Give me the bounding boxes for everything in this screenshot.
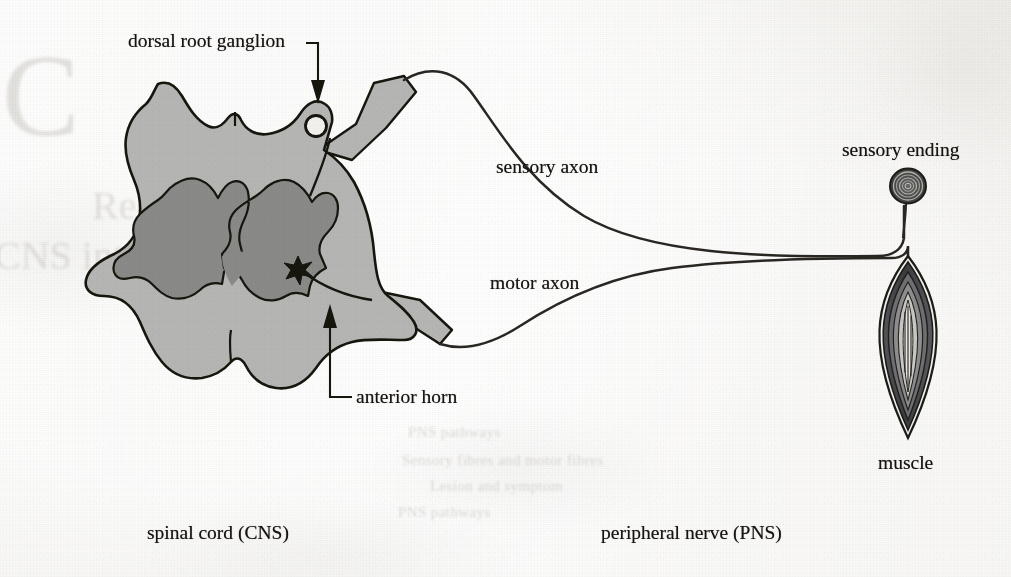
scan-grain-overlay xyxy=(0,0,1011,577)
figure-canvas: C Reflex and nerve CNS integration PNS p… xyxy=(0,0,1011,577)
